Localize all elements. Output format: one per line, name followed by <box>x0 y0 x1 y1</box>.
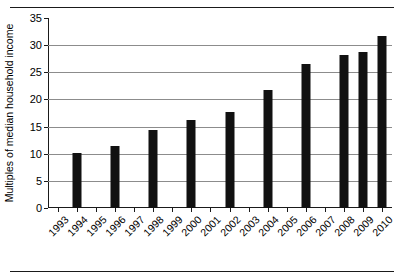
y-axis-title: Multiples of median household income <box>2 18 16 208</box>
x-tick-mark-1996 <box>115 208 116 212</box>
y-tick-label-10: 10 <box>30 148 42 159</box>
x-tick-mark-1997 <box>134 208 135 212</box>
bar-2008 <box>340 55 349 208</box>
gridline-30 <box>48 45 392 46</box>
x-tick-mark-1994 <box>77 208 78 212</box>
bar-1994 <box>72 153 81 208</box>
x-tick-mark-1999 <box>172 208 173 212</box>
y-tick-label-20: 20 <box>30 94 42 105</box>
x-tick-mark-1993 <box>58 208 59 212</box>
x-tick-mark-2004 <box>268 208 269 212</box>
y-tick-label-15: 15 <box>30 121 42 132</box>
x-tick-mark-2006 <box>306 208 307 212</box>
x-tick-label-2002: 2002 <box>218 214 242 238</box>
y-tick-mark-0 <box>44 208 48 209</box>
x-tick-mark-2009 <box>363 208 364 212</box>
x-tick-mark-2002 <box>230 208 231 212</box>
top-divider-rule <box>10 7 394 8</box>
x-tick-label-1993: 1993 <box>46 214 70 238</box>
bar-2010 <box>378 36 387 208</box>
y-tick-mark-20 <box>44 99 48 100</box>
x-tick-mark-2010 <box>382 208 383 212</box>
y-tick-label-25: 25 <box>30 67 42 78</box>
plot-area: 05101520253035 1993199419951996199719981… <box>48 18 392 208</box>
y-tick-label-30: 30 <box>30 40 42 51</box>
x-tick-label-1994: 1994 <box>65 214 89 238</box>
y-tick-mark-10 <box>44 154 48 155</box>
bottom-divider-rule <box>10 271 394 272</box>
y-tick-mark-25 <box>44 72 48 73</box>
x-tick-mark-2003 <box>249 208 250 212</box>
y-tick-mark-5 <box>44 181 48 182</box>
y-tick-mark-35 <box>44 18 48 19</box>
x-tick-mark-2000 <box>191 208 192 212</box>
chart-figure: Multiples of median household income 051… <box>0 0 400 280</box>
y-tick-mark-15 <box>44 127 48 128</box>
y-axis-line <box>48 18 49 208</box>
x-tick-label-2003: 2003 <box>237 214 261 238</box>
x-tick-mark-2008 <box>344 208 345 212</box>
bar-2006 <box>302 64 311 208</box>
bar-2004 <box>263 90 272 208</box>
x-tick-mark-2001 <box>210 208 211 212</box>
x-tick-mark-2007 <box>325 208 326 212</box>
y-tick-label-0: 0 <box>36 203 42 214</box>
x-tick-label-2010: 2010 <box>371 214 395 238</box>
y-tick-label-5: 5 <box>36 175 42 186</box>
bar-2009 <box>359 52 368 208</box>
bar-1996 <box>110 146 119 208</box>
x-tick-mark-1995 <box>96 208 97 212</box>
bar-2000 <box>187 120 196 208</box>
x-tick-mark-2005 <box>287 208 288 212</box>
x-tick-label-1995: 1995 <box>84 214 108 238</box>
bar-2002 <box>225 112 234 208</box>
x-tick-label-2004: 2004 <box>256 214 280 238</box>
bar-1998 <box>149 130 158 208</box>
y-tick-mark-30 <box>44 45 48 46</box>
x-tick-label-2001: 2001 <box>199 214 223 238</box>
y-tick-label-35: 35 <box>30 13 42 24</box>
x-tick-mark-1998 <box>153 208 154 212</box>
